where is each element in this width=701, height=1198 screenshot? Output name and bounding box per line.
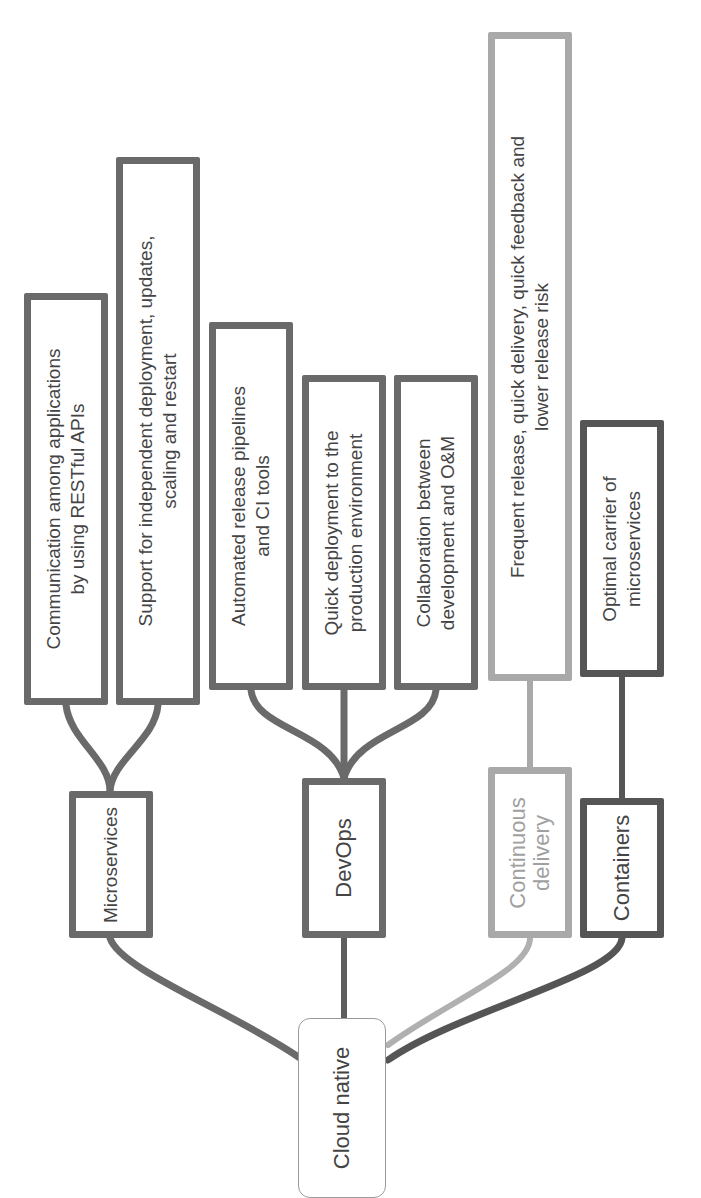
node-optimal-carrier: Optimal carrier of microservices: [580, 420, 664, 677]
node-frequent-release: Frequent release, quick delivery, quick …: [488, 32, 572, 681]
node-devops: DevOps: [302, 778, 386, 938]
node-label: Support for independent deployment, upda…: [134, 236, 182, 627]
connector-root-microservices: [110, 938, 300, 1058]
node-independent-deployment: Support for independent deployment, upda…: [116, 157, 200, 705]
connector-devops-collaboration: [344, 690, 436, 778]
connector-root-continuous-delivery: [388, 938, 530, 1045]
node-label: Containers: [610, 815, 634, 921]
connector-root-containers: [388, 938, 622, 1060]
root-label: Cloud native: [330, 1047, 354, 1169]
connector-microservices-support: [110, 705, 158, 791]
connector-devops-automated: [251, 690, 344, 778]
node-label: Automated release pipelines and CI tools: [227, 386, 275, 626]
node-continuous-delivery: Continuous delivery: [488, 767, 572, 938]
node-label: DevOps: [332, 818, 356, 897]
node-collaboration: Collaboration between development and O&…: [394, 375, 478, 690]
connector-microservices-communication: [66, 705, 110, 791]
node-label: Communication among applications by usin…: [42, 349, 90, 650]
node-automated-pipelines: Automated release pipelines and CI tools: [209, 322, 293, 690]
node-label: Frequent release, quick delivery, quick …: [506, 135, 554, 577]
node-communication-restful: Communication among applications by usin…: [24, 293, 108, 705]
node-quick-deployment: Quick deployment to the production envir…: [302, 375, 386, 690]
node-label: Microservices: [99, 806, 123, 922]
node-microservices: Microservices: [69, 791, 153, 938]
node-label: Collaboration between development and O&…: [412, 435, 460, 629]
node-cloud-native: Cloud native: [298, 1018, 386, 1198]
node-label: Quick deployment to the production envir…: [320, 430, 368, 635]
node-label: Continuous delivery: [506, 797, 554, 908]
node-containers: Containers: [580, 798, 664, 938]
node-label: Optimal carrier of microservices: [598, 476, 646, 622]
